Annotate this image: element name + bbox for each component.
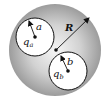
cavity-b: b qb [49, 52, 87, 90]
radius-a-label: a [36, 21, 42, 32]
radius-b-label: b [67, 56, 73, 67]
radius-R-label: R [64, 22, 73, 33]
charge-b-dot [66, 69, 70, 73]
cavity-a: a qa [16, 18, 54, 56]
sphere-center-dot [54, 48, 58, 52]
conducting-sphere-diagram: a qa b qb R [0, 0, 109, 108]
charge-a-dot [33, 35, 37, 39]
